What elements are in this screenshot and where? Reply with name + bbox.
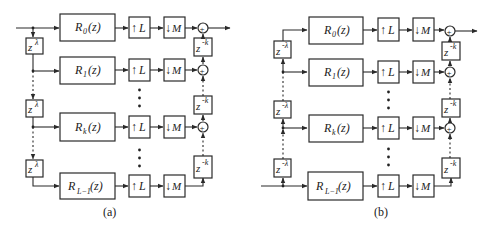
svg-text:↑: ↑ [131, 120, 137, 134]
svg-text:M: M [420, 66, 431, 78]
svg-text:↑: ↑ [380, 179, 386, 193]
svg-text:z: z [275, 45, 281, 57]
filter-box-b-0: R 0 (z) [309, 17, 363, 44]
svg-text:M: M [420, 180, 431, 192]
svg-text:↓: ↓ [414, 179, 420, 193]
svg-text:M: M [171, 121, 182, 133]
caption-b: (b) [374, 205, 388, 219]
svg-text:↓: ↓ [414, 23, 420, 37]
row-b-k: ↑ L ↓ M + [363, 117, 455, 139]
svg-text:↑: ↑ [380, 23, 386, 37]
svg-text:L: L [138, 179, 146, 193]
svg-text:+: + [200, 123, 205, 133]
svg-text:L: L [387, 65, 395, 79]
svg-text:-k: -k [450, 99, 457, 108]
svg-text:L: L [138, 120, 146, 134]
feedback-box-a-3: z -k [194, 156, 212, 178]
svg-text:λ: λ [34, 160, 39, 169]
feedback-box-a-1: z -k [194, 38, 212, 56]
row-b-L-1: ↑ L ↓ M [363, 175, 451, 197]
row-a-1: ↑ L ↓ M + [115, 59, 208, 81]
svg-text:z: z [27, 41, 33, 53]
delay-box-a-3: z λ [26, 160, 43, 177]
svg-text:L: L [387, 121, 395, 135]
svg-text:↓: ↓ [165, 21, 171, 35]
svg-text:z: z [443, 46, 449, 58]
feedback-box-b-3: z -k [442, 158, 460, 178]
svg-text:↑: ↑ [380, 121, 386, 135]
svg-text:R: R [323, 65, 332, 79]
svg-text:↓: ↓ [165, 120, 171, 134]
figure-b: z -λ z -λ z -λ R 0 (z) R [261, 17, 477, 219]
svg-text:↑: ↑ [131, 21, 137, 35]
svg-text:L: L [387, 179, 395, 193]
svg-text:-λ: -λ [282, 159, 289, 168]
feedback-box-a-2: z -k [194, 96, 212, 114]
svg-text:R: R [323, 23, 332, 37]
svg-text:z: z [195, 100, 201, 112]
row-b-1: ↑ L ↓ M + [363, 61, 455, 83]
filter-box-b-k: R k (z) [309, 115, 363, 142]
filter-box-a-L-1: R L−1 (z) [60, 173, 115, 199]
svg-text:↑: ↑ [131, 179, 137, 193]
svg-text:z: z [443, 103, 449, 115]
delay-box-b-2: z -λ [274, 101, 291, 118]
svg-text:R: R [74, 63, 83, 77]
svg-text:-k: -k [450, 159, 457, 168]
svg-text:M: M [171, 180, 182, 192]
svg-text:(z): (z) [88, 63, 101, 77]
delay-box-b-3: z -λ [274, 159, 291, 177]
svg-text:k: k [332, 128, 336, 137]
caption-a: (a) [103, 205, 116, 219]
svg-text:(z): (z) [338, 179, 351, 193]
svg-text:z: z [27, 103, 33, 115]
svg-text:0: 0 [332, 30, 336, 39]
filter-box-b-1: R 1 (z) [309, 59, 363, 86]
delay-box-b-1: z -λ [274, 41, 291, 58]
row-a-L-1: ↑ L ↓ M [115, 175, 203, 197]
svg-text:λ: λ [34, 38, 39, 47]
svg-text:(z): (z) [337, 121, 350, 135]
svg-text:z: z [443, 163, 449, 175]
feedback-box-b-1: z -k [442, 42, 460, 60]
row-a-0: ↑ L ↓ M + [115, 17, 230, 38]
svg-text:z: z [27, 163, 33, 175]
row-b-0: ↑ L ↓ M + [363, 18, 477, 41]
svg-text:↓: ↓ [165, 179, 171, 193]
svg-text:1: 1 [332, 72, 336, 81]
svg-text:L: L [387, 23, 395, 37]
svg-text:z: z [195, 162, 201, 174]
svg-text:k: k [83, 127, 87, 136]
svg-text:M: M [420, 122, 431, 134]
svg-text:R: R [74, 20, 83, 34]
svg-text:-k: -k [202, 96, 209, 105]
svg-text:↓: ↓ [165, 63, 171, 77]
svg-text:R: R [315, 179, 324, 193]
svg-text:L: L [138, 63, 146, 77]
svg-text:+: + [447, 68, 452, 78]
svg-text:-k: -k [202, 158, 209, 167]
svg-text:-k: -k [450, 42, 457, 51]
svg-text:↑: ↑ [131, 63, 137, 77]
row-a-k: ↑ L ↓ M + [115, 116, 208, 138]
svg-text:(z): (z) [337, 65, 350, 79]
svg-text:+: + [200, 24, 205, 34]
svg-text:z: z [275, 105, 281, 117]
svg-text:-k: -k [202, 38, 209, 47]
svg-text:+: + [200, 66, 205, 76]
svg-text:M: M [171, 64, 182, 76]
figure-a: z λ z λ z λ R 0 (z) R [16, 14, 230, 219]
svg-text:z: z [275, 163, 281, 175]
svg-text:1: 1 [83, 70, 87, 79]
filter-box-a-k: R k (z) [60, 113, 115, 141]
polyphase-diagrams: z λ z λ z λ R 0 (z) R [0, 0, 494, 229]
svg-text:M: M [420, 24, 431, 36]
svg-text:R: R [323, 121, 332, 135]
filter-box-a-1: R 1 (z) [60, 57, 115, 84]
delay-box-a-1: z λ [26, 38, 43, 54]
svg-text:+: + [447, 124, 452, 134]
svg-text:0: 0 [83, 27, 87, 36]
filter-box-a-0: R 0 (z) [60, 14, 115, 41]
svg-text:λ: λ [34, 100, 39, 109]
svg-text:L−1: L−1 [324, 187, 339, 196]
